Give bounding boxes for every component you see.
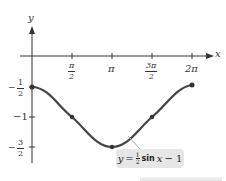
bottom-shadow-band [140,177,222,181]
chart-figure: y x π2 π 3π2 2π − 12 −1 − 32 y = 12 sin … [0,0,226,181]
y-axis-label: y [28,13,34,23]
eq-fraction: 12 [136,152,140,165]
y-tick-neg-one: −1 [13,112,28,122]
eq-func: sin [142,154,155,163]
eq-var: x [157,153,163,164]
x-tick-pi: π [108,64,115,74]
x-axis-arrow-icon [206,53,214,59]
curve-points [30,83,195,150]
y-tick-neg-half-sign: − [8,83,16,92]
eq-rest: − 1 [164,153,182,164]
equation-label: y = 12 sin x − 1 [116,149,184,168]
eq-y: y [118,153,124,164]
x-tick-pi-over-2: π2 [68,62,75,81]
y-axis-arrow-icon [29,26,35,34]
eq-equals: = [125,153,133,164]
x-tick-2pi: 2π [185,64,198,74]
annotation-leader-line [128,136,141,150]
y-tick-neg-three-halves: 32 [17,139,24,158]
y-tick-neg-three-halves-sign: − [8,143,16,152]
plot-svg [0,0,226,181]
curve [32,85,192,147]
x-axis-label: x [215,49,221,59]
y-tick-neg-half: 12 [17,79,24,98]
x-tick-3pi-over-2: 3π2 [145,62,157,81]
